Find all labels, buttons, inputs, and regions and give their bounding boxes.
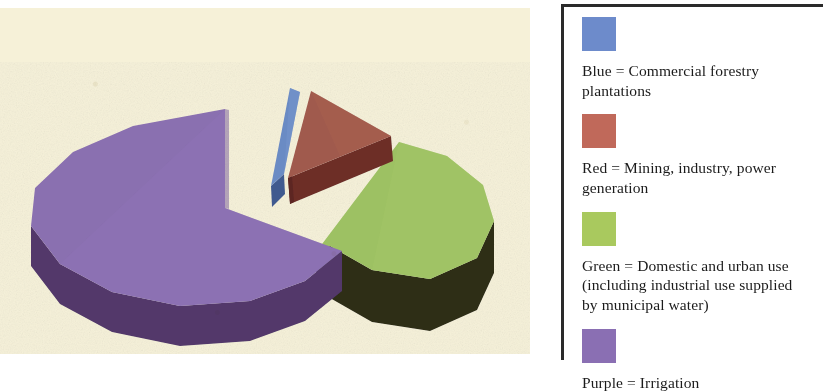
legend-swatch-green-icon xyxy=(582,212,616,246)
legend-label-blue: Blue = Commercial forestry plantations xyxy=(582,61,808,100)
legend-swatch-blue-icon xyxy=(582,17,616,51)
legend-swatch-red-icon xyxy=(582,114,616,148)
legend-item-purple: Purple = Irrigation xyxy=(582,329,817,392)
pie-chart-panel xyxy=(0,8,530,354)
legend-panel: Blue = Commercial forestry plantations R… xyxy=(561,4,823,360)
pie-chart-svg xyxy=(0,8,530,354)
pie-slice-purple xyxy=(31,109,342,346)
legend-item-blue: Blue = Commercial forestry plantations xyxy=(582,17,817,100)
legend-item-green: Green = Domestic and urban use (includin… xyxy=(582,212,817,315)
legend-label-red: Red = Mining, industry, power generation xyxy=(582,158,808,197)
legend-label-purple: Purple = Irrigation xyxy=(582,373,808,392)
legend-item-red: Red = Mining, industry, power generation xyxy=(582,114,817,197)
legend-label-green: Green = Domestic and urban use (includin… xyxy=(582,256,808,315)
legend-swatch-purple-icon xyxy=(582,329,616,363)
